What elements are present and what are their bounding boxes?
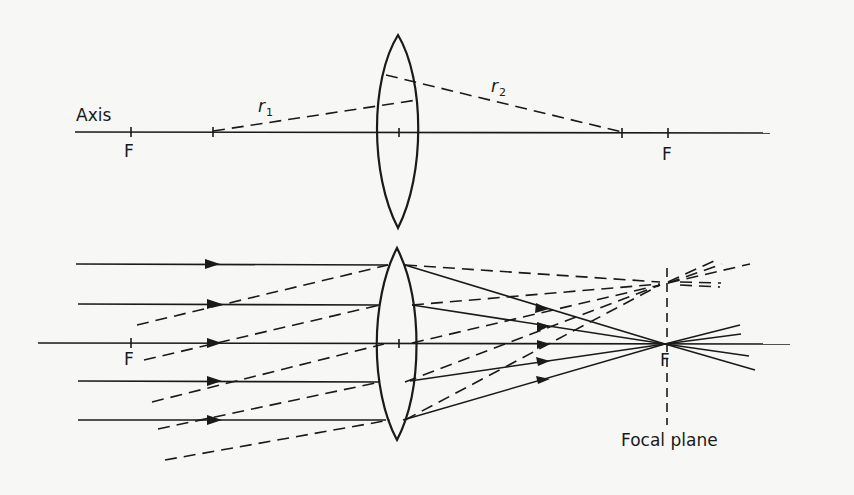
bottom-panel xyxy=(38,248,790,460)
lens-diagram xyxy=(0,0,854,495)
refracted-rays-to-focus xyxy=(403,265,755,420)
focus-label-right-bottom: F xyxy=(660,352,670,369)
radius-r2-label: r2 xyxy=(491,78,506,98)
focus-label-left-bottom: F xyxy=(124,351,134,368)
radius-r1-subscript: 1 xyxy=(266,106,273,119)
radius-r1-symbol: r xyxy=(258,96,265,116)
parallel-incident-rays xyxy=(76,264,388,420)
focal-plane-label: Focal plane xyxy=(621,432,718,449)
radius-r1-line xyxy=(213,100,417,131)
focus-label-right-top: F xyxy=(662,146,672,163)
axis-label: Axis xyxy=(76,107,111,124)
lens-top xyxy=(377,35,418,228)
top-panel xyxy=(75,35,770,228)
optical-axis-top xyxy=(75,132,770,133)
radius-r2-symbol: r xyxy=(491,76,498,96)
radius-r2-subscript: 2 xyxy=(499,86,506,99)
focus-label-left-top: F xyxy=(124,143,134,160)
radius-r1-label: r1 xyxy=(258,98,273,118)
